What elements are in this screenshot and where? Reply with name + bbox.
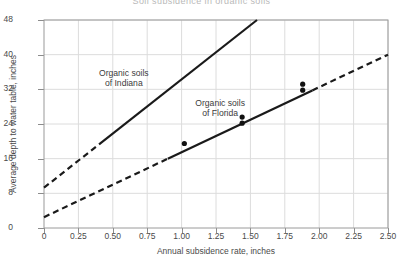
series-annotation-line: of Florida [202,108,238,118]
series-line-dashed [44,159,168,218]
series-line-dashed [44,144,99,187]
data-point [240,114,245,119]
series-annotation-line: Organic soils [99,68,149,78]
plot-canvas: Organic soilsof IndianaOrganic soilsof F… [0,0,403,264]
series-annotations-layer: Organic soilsof IndianaOrganic soilsof F… [99,68,245,117]
series-annotation-line: Organic soils [195,98,245,108]
series-annotation: Organic soilsof Florida [195,98,245,118]
data-point [182,141,187,146]
chart-figure: Soil subsidence in organic soils Average… [0,0,403,264]
data-point [240,121,245,126]
series-annotation-line: of Indiana [105,78,143,88]
data-point [300,88,305,93]
series-annotation: Organic soilsof Indiana [99,68,149,88]
series-line-dashed [312,55,388,91]
data-point [300,82,305,87]
data-points-layer [182,82,306,147]
